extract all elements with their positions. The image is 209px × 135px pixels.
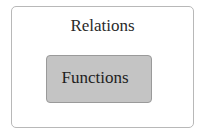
functions-set-box: Functions xyxy=(46,55,152,103)
relations-label: Relations xyxy=(12,16,193,36)
functions-label: Functions xyxy=(61,68,128,88)
